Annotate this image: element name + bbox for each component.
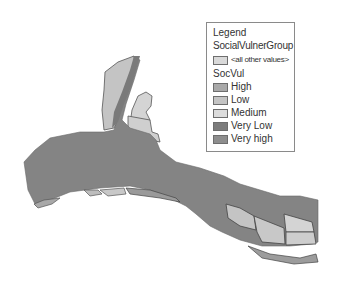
legend-label-very-high: Very high bbox=[231, 133, 273, 145]
legend-row-very-high: Very high bbox=[213, 133, 294, 145]
legend-label-medium: Medium bbox=[231, 107, 267, 119]
legend-row-other-values: <all other values> bbox=[213, 54, 294, 66]
legend-label-high: High bbox=[231, 81, 252, 93]
map-polygon-south-east-strip bbox=[248, 246, 318, 264]
legend-row-medium: Medium bbox=[213, 107, 294, 119]
map-polygon-east-4 bbox=[286, 232, 316, 245]
legend-row-low: Low bbox=[213, 94, 294, 106]
map-canvas[interactable] bbox=[0, 0, 364, 295]
map-polygon-south-strip-1 bbox=[84, 190, 102, 196]
legend-row-very-low: Very Low bbox=[213, 120, 294, 132]
legend-swatch-low bbox=[213, 96, 228, 105]
legend-field-name: SocVul bbox=[213, 68, 294, 80]
legend-layer-name: SocialVulnerGroup bbox=[213, 40, 294, 52]
legend-swatch-high bbox=[213, 83, 228, 92]
map-legend: Legend SocialVulnerGroup <all other valu… bbox=[206, 22, 295, 152]
legend-row-high: High bbox=[213, 81, 294, 93]
legend-swatch-very-high bbox=[213, 135, 228, 144]
legend-swatch-other-values bbox=[213, 56, 228, 65]
legend-label-low: Low bbox=[231, 94, 249, 106]
map-polygon-south-strip-2 bbox=[100, 188, 126, 196]
legend-label-other-values: <all other values> bbox=[231, 54, 289, 66]
legend-swatch-very-low bbox=[213, 122, 228, 131]
legend-title: Legend bbox=[213, 27, 294, 39]
legend-swatch-medium bbox=[213, 109, 228, 118]
legend-label-very-low: Very Low bbox=[231, 120, 272, 132]
